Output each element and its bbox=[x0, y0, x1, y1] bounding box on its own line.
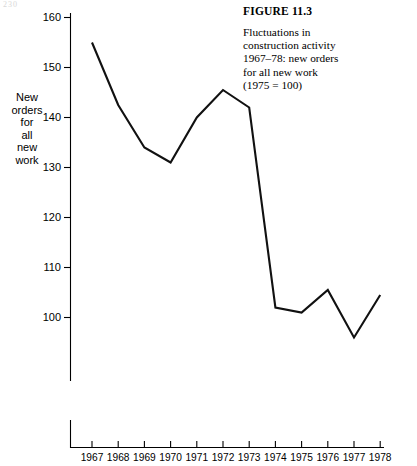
y-tick-label: 160 bbox=[43, 11, 61, 23]
x-tick-label: 1969 bbox=[133, 452, 156, 463]
x-tick-labels: 1967196819691970197119721973197419751976… bbox=[81, 452, 392, 463]
x-tick-label: 1968 bbox=[107, 452, 130, 463]
y-tick-label: 130 bbox=[43, 161, 61, 173]
x-ticks bbox=[92, 441, 380, 448]
x-tick-label: 1974 bbox=[264, 452, 287, 463]
x-tick-label: 1975 bbox=[290, 452, 313, 463]
data-series-new-orders bbox=[92, 43, 380, 338]
figure-11-3: 230 FIGURE 11.3 Fluctuations in construc… bbox=[0, 0, 417, 466]
y-tick-labels: 160 150 140 130 120 110 100 bbox=[43, 11, 61, 323]
y-tick-label: 110 bbox=[43, 261, 61, 273]
y-ticks bbox=[64, 18, 71, 318]
x-tick-label: 1971 bbox=[185, 452, 208, 463]
x-tick-label: 1973 bbox=[238, 452, 261, 463]
x-tick-label: 1967 bbox=[81, 452, 104, 463]
y-tick-label: 120 bbox=[43, 211, 61, 223]
x-tick-label: 1972 bbox=[212, 452, 235, 463]
x-tick-label: 1970 bbox=[159, 452, 182, 463]
y-tick-label: 150 bbox=[43, 61, 61, 73]
x-tick-label: 1978 bbox=[369, 452, 392, 463]
x-tick-label: 1977 bbox=[343, 452, 366, 463]
x-tick-label: 1976 bbox=[316, 452, 339, 463]
line-chart: 160 150 140 130 120 110 100 196719681969… bbox=[0, 0, 417, 466]
y-tick-label: 100 bbox=[43, 311, 61, 323]
y-tick-label: 140 bbox=[43, 111, 61, 123]
